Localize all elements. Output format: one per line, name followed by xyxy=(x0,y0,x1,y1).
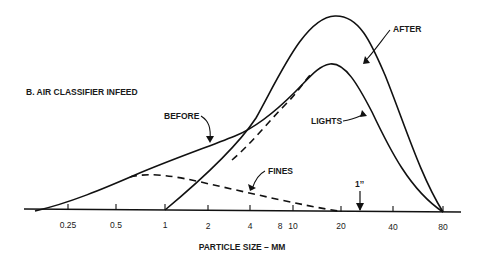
svg-text:1: 1 xyxy=(163,220,168,230)
svg-text:0.25: 0.25 xyxy=(60,220,77,230)
fines-curve xyxy=(130,175,338,211)
one-inch-label: 1’’ xyxy=(355,179,364,189)
svg-text:10: 10 xyxy=(288,221,298,231)
fines-label: FINES xyxy=(268,166,293,176)
svg-text:2: 2 xyxy=(206,221,211,231)
svg-text:8: 8 xyxy=(278,221,283,231)
before-arrowhead xyxy=(206,136,214,143)
after-label: AFTER xyxy=(393,24,421,34)
before-label: BEFORE xyxy=(164,111,200,121)
fines-arrowhead xyxy=(248,184,256,191)
one-inch-arrowhead xyxy=(356,203,364,211)
classifier-diagram: B. AIR CLASSIFIER INFEED AFTER BEFORE LI… xyxy=(0,0,482,258)
svg-text:40: 40 xyxy=(388,222,398,232)
lights-label: LIGHTS xyxy=(311,116,342,126)
svg-text:20: 20 xyxy=(336,221,346,231)
x-axis xyxy=(24,209,461,212)
lights-curve xyxy=(330,64,443,212)
tick-labels: 0.25 0.5 1 2 4 8 10 20 40 80 xyxy=(60,220,448,232)
x-axis-label: PARTICLE SIZE – MM xyxy=(199,242,286,252)
fines-leader xyxy=(252,171,265,189)
svg-text:0.5: 0.5 xyxy=(110,220,122,230)
svg-text:80: 80 xyxy=(438,222,448,232)
figure-title: B. AIR CLASSIFIER INFEED xyxy=(26,87,138,97)
lights-arrowhead xyxy=(360,110,367,117)
svg-text:4: 4 xyxy=(248,221,253,231)
